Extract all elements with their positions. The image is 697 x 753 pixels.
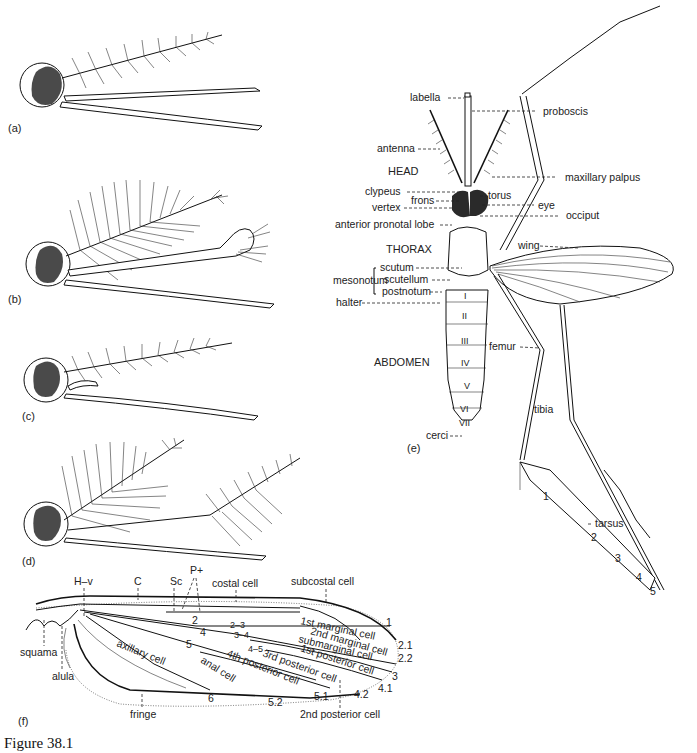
label-hv: H–v (74, 575, 93, 587)
svg-text:1: 1 (386, 616, 392, 628)
svg-text:III: III (461, 336, 469, 346)
svg-text:4: 4 (636, 571, 642, 583)
svg-text:6: 6 (208, 692, 214, 704)
svg-text:5: 5 (650, 585, 656, 597)
svg-text:4–5: 4–5 (248, 644, 263, 654)
svg-text:4.1: 4.1 (378, 682, 393, 694)
region-abdomen: ABDOMEN (374, 356, 430, 368)
svg-text:1: 1 (543, 490, 549, 502)
panel-label-d: (d) (22, 555, 35, 567)
panel-label-e: (e) (407, 442, 420, 454)
figure-caption: Figure 38.1 (4, 735, 73, 751)
svg-text:VII: VII (459, 418, 470, 428)
label-eye: eye (538, 199, 555, 211)
svg-text:IV: IV (461, 358, 470, 368)
label-maxillary-palpus: maxillary palpus (565, 171, 640, 183)
cell-axillary: axillary cell (115, 637, 167, 667)
label-costal-cell: costal cell (212, 577, 258, 589)
label-sc: Sc (170, 575, 182, 587)
label-c: C (134, 575, 142, 587)
label-anterior-pronotal-lobe: anterior pronotal lobe (335, 218, 434, 230)
label-vertex: vertex (372, 201, 401, 213)
label-tibia: tibia (534, 403, 553, 415)
svg-text:VI: VI (460, 404, 469, 414)
panel-label-b: (b) (8, 293, 21, 305)
svg-text:2: 2 (591, 531, 597, 543)
svg-text:3: 3 (392, 670, 398, 682)
panel-d-head-drawing (24, 438, 300, 560)
label-subcostal-cell: subcostal cell (291, 575, 354, 587)
label-torus: torus (488, 189, 511, 201)
label-femur: femur (489, 340, 516, 352)
label-p-plus: P+ (190, 564, 203, 576)
label-wing: wing (517, 239, 540, 251)
svg-text:5.1: 5.1 (314, 690, 329, 702)
region-head: HEAD (388, 165, 419, 177)
label-clypeus: clypeus (365, 185, 401, 197)
label-occiput: occiput (566, 209, 599, 221)
svg-text:2.1: 2.1 (398, 639, 413, 651)
label-frons: frons (411, 194, 434, 206)
svg-text:5: 5 (186, 638, 192, 650)
label-halter: halter (336, 296, 363, 308)
svg-text:I: I (464, 291, 467, 301)
panel-b-head-drawing (26, 180, 274, 308)
label-squama: squama (20, 646, 58, 658)
svg-text:V: V (464, 381, 470, 391)
svg-text:5.2: 5.2 (268, 696, 283, 708)
svg-text:4: 4 (200, 626, 206, 638)
svg-text:3: 3 (615, 552, 621, 564)
label-fringe: fringe (130, 708, 156, 720)
svg-text:4.2: 4.2 (354, 688, 369, 700)
label-antenna: antenna (377, 142, 415, 154)
svg-text:3–4: 3–4 (234, 630, 249, 640)
label-proboscis: proboscis (543, 105, 588, 117)
label-cerci: cerci (426, 429, 448, 441)
svg-text:2: 2 (192, 614, 198, 626)
label-scutum: scutum (380, 261, 414, 273)
svg-text:II: II (462, 311, 467, 321)
panel-c-head-drawing (24, 338, 258, 420)
label-scutellum: scutellum (384, 273, 429, 285)
panel-e-right-labels: proboscis maxillary palpus torus eye occ… (472, 105, 640, 529)
label-mesonotum: mesonotum (333, 274, 388, 286)
svg-text:2.2: 2.2 (398, 652, 413, 664)
label-alula: alula (52, 670, 74, 682)
label-labella: labella (410, 91, 441, 103)
figure-38-1: (a) (b) (c) (0, 0, 697, 753)
panel-e-left-labels: labella antenna HEAD clypeus frons verte… (333, 91, 464, 454)
label-postnotum: postnotum (382, 285, 431, 297)
label-2nd-posterior-cell: 2nd posterior cell (300, 708, 380, 720)
panel-label-f: (f) (18, 715, 28, 727)
panel-a-head-drawing (20, 32, 262, 130)
panel-label-c: (c) (22, 410, 35, 422)
region-thorax: THORAX (386, 243, 433, 255)
panel-label-a: (a) (8, 122, 21, 134)
svg-text:2–3: 2–3 (230, 620, 245, 630)
label-tarsus: tarsus (595, 517, 624, 529)
